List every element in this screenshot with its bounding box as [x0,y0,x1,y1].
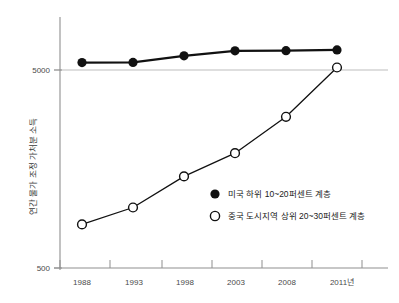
data-point [180,172,189,181]
x-tick-label-1: 1993 [125,278,143,287]
data-point [179,51,188,60]
data-point [231,149,240,158]
data-point [78,220,87,229]
data-point [282,112,291,121]
data-point [128,58,137,67]
x-tick-label-5: 2011년 [330,277,354,287]
data-point [332,45,341,54]
data-point [129,203,138,212]
data-point [281,46,290,55]
legend-marker-open-circle-icon [210,211,219,220]
line-chart: 5000 500 연간 물가 조정 가처분 소득 1988 1993 1998 … [0,0,399,303]
x-tick-label-2: 1998 [176,278,194,287]
x-tick-label-4: 2008 [278,278,296,287]
data-point [230,46,239,55]
legend-marker-filled-circle-icon [210,189,219,198]
data-point [333,63,342,72]
data-point [77,58,86,67]
chart-container: 5000 500 연간 물가 조정 가처분 소득 1988 1993 1998 … [0,0,399,303]
legend-label-us: 미국 하위 10~20퍼센트 계층 [228,189,331,199]
y-tick-label-500: 500 [37,264,51,273]
x-tick-label-0: 1988 [73,278,91,287]
y-tick-label-5000: 5000 [32,66,50,75]
legend-label-china: 중국 도시지역 상위 20~30퍼센트 계층 [228,211,365,221]
x-tick-label-3: 2003 [227,278,245,287]
y-axis-title: 연간 물가 조정 가처분 소득 [28,118,38,215]
